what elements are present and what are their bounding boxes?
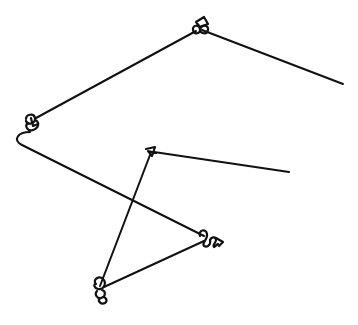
- segment-top-to-upper-left: [36, 31, 196, 118]
- segment-top-to-right-end: [202, 30, 343, 84]
- knot-bottom-scribble: [94, 278, 106, 304]
- knot-right-scribble: [200, 230, 223, 247]
- segment-middle-to-right-end: [154, 152, 289, 172]
- knot-middle-scribble: [146, 147, 156, 156]
- segment-bottom-to-middle: [100, 155, 150, 286]
- segment-right-knot-to-bottom: [104, 241, 204, 287]
- line-drawing-canvas: [0, 0, 358, 325]
- segment-left-hook-to-right-knot: [17, 132, 204, 236]
